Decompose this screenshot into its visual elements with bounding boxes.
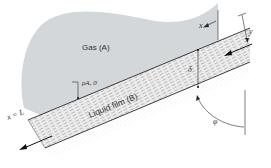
x-axis-label: x <box>198 21 203 30</box>
x-end-label: x = L <box>5 107 26 122</box>
outflow-arrow-head <box>19 144 27 150</box>
diagram-canvas: x y δ φ ρA, 0 x = L Gas (A) Liquid film … <box>0 0 271 168</box>
falling-film-diagram: x y δ φ ρA, 0 x = L Gas (A) Liquid film … <box>0 0 271 168</box>
thickness-label: δ <box>188 65 192 74</box>
density-label: ρA, 0 <box>81 79 97 87</box>
angle-label: φ <box>213 117 218 126</box>
angle-arc <box>198 98 244 127</box>
gas-label: Gas (A) <box>82 43 110 52</box>
y-axis-label: y <box>248 27 253 36</box>
